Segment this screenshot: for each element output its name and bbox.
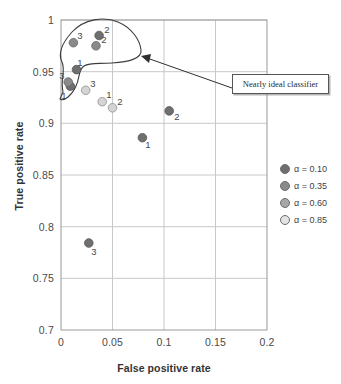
point-label: 1 <box>61 90 66 101</box>
point-label: 3 <box>59 70 64 81</box>
legend-swatch-icon <box>280 164 290 174</box>
legend-item: α = 0.10 <box>280 160 327 177</box>
y-tick-0: 0.7 <box>18 324 54 336</box>
legend-label: α = 0.60 <box>294 198 327 208</box>
point-label: 3 <box>77 30 82 41</box>
x-tick-3: 0.15 <box>205 336 226 348</box>
point-label: 2 <box>174 111 179 122</box>
annotation-callout: Nearly ideal classifier <box>232 74 329 94</box>
legend-item: α = 0.85 <box>280 211 327 228</box>
x-tick-0: 0 <box>58 336 64 348</box>
x-tick-1: 0.05 <box>102 336 123 348</box>
point-label: 1 <box>145 139 150 150</box>
point-label: 3 <box>90 78 95 89</box>
grid-lines <box>61 20 267 330</box>
callout-arrow <box>141 54 232 88</box>
y-tick-5: 0.95 <box>18 66 54 78</box>
point-label: 1 <box>77 57 82 68</box>
legend-swatch-icon <box>280 181 290 191</box>
legend-label: α = 0.85 <box>294 215 327 225</box>
x-axis-title: False positive rate <box>60 362 268 374</box>
x-tick-2: 0.1 <box>156 336 171 348</box>
y-tick-6: 1 <box>18 14 54 26</box>
legend-swatch-icon <box>280 215 290 225</box>
annotation-text: Nearly ideal classifier <box>243 79 318 89</box>
legend-item: α = 0.35 <box>280 177 327 194</box>
x-tick-4: 0.2 <box>259 336 274 348</box>
legend-label: α = 0.35 <box>294 181 327 191</box>
legend-item: α = 0.60 <box>280 194 327 211</box>
point-label: 2 <box>101 34 106 45</box>
y-tick-1: 0.75 <box>18 272 54 284</box>
legend-label: α = 0.10 <box>294 164 327 174</box>
point-label: 1 <box>106 89 111 100</box>
y-axis-title: True positive rate <box>13 106 25 226</box>
legend: α = 0.10 α = 0.35 α = 0.60 α = 0.85 <box>280 160 327 228</box>
roc-scatter-chart: 0 0.05 0.1 0.15 0.2 0.7 0.75 0.8 0.85 0.… <box>0 0 341 384</box>
point-label: 2 <box>117 96 122 107</box>
point-label: 3 <box>91 246 96 257</box>
legend-swatch-icon <box>280 198 290 208</box>
